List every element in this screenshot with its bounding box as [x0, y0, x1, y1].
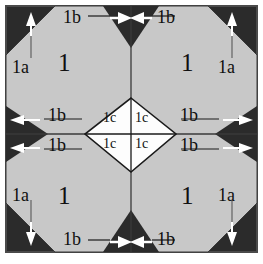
edge-label-top-right: 1b [157, 8, 175, 26]
corner-label-top-right: 1a [218, 58, 235, 76]
edge-label-top-left: 1b [63, 8, 81, 26]
center-label-lower-right: 1c [135, 137, 148, 151]
corner-label-bottom-left: 1a [12, 186, 29, 204]
quadrant-label-top-right: 1 [181, 50, 194, 75]
quadrant-label-top-left: 1 [58, 50, 71, 75]
center-label-upper-left: 1c [103, 111, 116, 125]
figure-root: 1 1 1 1 1a 1a 1a 1a 1b 1b 1b 1b 1b 1b 1b… [0, 0, 263, 264]
edge-label-right-lower: 1b [180, 136, 198, 154]
corner-label-bottom-right: 1a [218, 186, 235, 204]
center-label-lower-left: 1c [103, 137, 116, 151]
quadrant-label-bottom-right: 1 [181, 183, 194, 208]
center-label-upper-right: 1c [135, 111, 148, 125]
geometric-diagram-svg [0, 0, 263, 264]
edge-label-bottom-left: 1b [63, 230, 81, 248]
corner-label-top-left: 1a [12, 58, 29, 76]
edge-label-left-upper: 1b [48, 106, 66, 124]
quadrant-label-bottom-left: 1 [58, 183, 71, 208]
edge-label-bottom-right: 1b [157, 230, 175, 248]
edge-label-left-lower: 1b [48, 136, 66, 154]
edge-label-right-upper: 1b [180, 106, 198, 124]
